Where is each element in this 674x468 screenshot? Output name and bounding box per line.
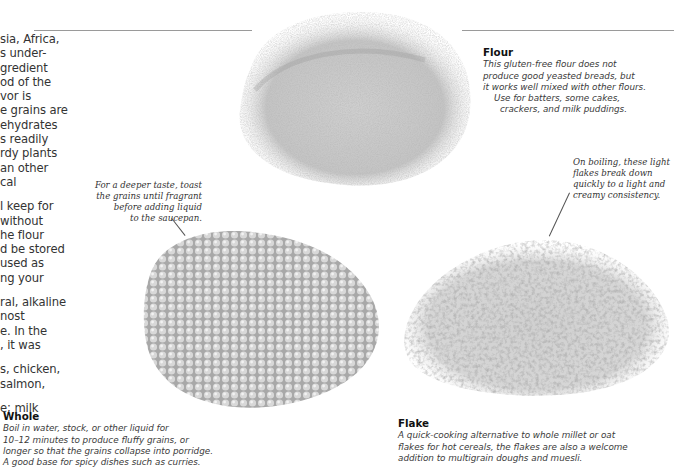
flour-title: Flour [483,47,646,58]
body-line: rdy plants [0,146,150,160]
body-line: he flour [0,228,150,242]
whole-grain-pile-image [140,215,395,415]
body-line: ral, alkaline [0,295,150,309]
body-line: e grains are [0,103,150,117]
body-line: s under- [0,46,150,60]
paragraph-gap [0,391,150,401]
top-rule-left [34,30,252,31]
body-line: e. In the [0,324,150,338]
body-line: , it was [0,338,150,352]
body-line: nost [0,309,150,323]
body-line: sia, Africa, [0,32,150,46]
whole-caption: Whole Boil in water, stock, or other liq… [3,411,213,468]
body-line: s, chicken, [0,362,150,376]
body-line: s readily [0,132,150,146]
body-line: salmon, [0,377,150,391]
whole-title: Whole [3,411,213,422]
flake-pile-image [400,222,674,397]
top-rule-right [462,30,674,31]
paragraph-gap [0,352,150,362]
flake-caption: Flake A quick-cooking alternative to who… [398,418,628,464]
body-line: ehydrates [0,118,150,132]
body-line: an other [0,161,150,175]
toast-annotation: For a deeper taste, toast the grains unt… [92,180,202,224]
body-line: d be stored [0,242,150,256]
flour-caption: Flour This gluten-free flour does not pr… [483,47,646,116]
body-line: vor is [0,89,150,103]
flour-pile-image [225,0,475,190]
body-line: ng your [0,271,150,285]
flake-title: Flake [398,418,628,429]
body-line: gredient [0,61,150,75]
body-line: used as [0,256,150,270]
boiling-annotation: On boiling, these light flakes break dow… [573,157,673,201]
paragraph-gap [0,285,150,295]
body-line: od of the [0,75,150,89]
